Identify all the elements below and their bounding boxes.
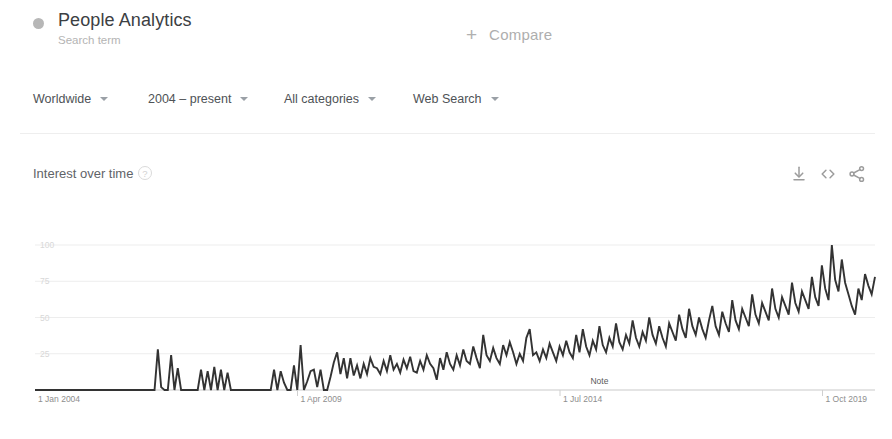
filter-bar: Worldwide 2004 – present All categories … [0,88,892,132]
filter-time-range[interactable]: 2004 – present [148,88,248,110]
x-axis-tick-label: 1 Oct 2019 [826,394,868,404]
section-divider [20,133,875,134]
plus-icon: + [466,25,477,44]
trends-header: People Analytics Search term + Compare [0,0,892,68]
embed-code-icon[interactable] [818,164,838,184]
search-term-title: People Analytics [58,10,192,31]
y-axis-tick-label: 100 [40,240,54,250]
y-axis-tick-label: 25 [40,349,50,359]
filter-time-range-label: 2004 – present [148,92,231,106]
series-color-dot [33,18,44,29]
chevron-down-icon [240,97,248,101]
chart-note-annotation[interactable]: Note [590,376,608,386]
y-axis-tick-label: 75 [40,276,50,286]
compare-label: Compare [489,26,552,43]
card-title: Interest over time [33,166,133,181]
chevron-down-icon [368,97,376,101]
help-icon[interactable]: ? [138,166,152,180]
search-term-subtitle: Search term [58,34,121,46]
chevron-down-icon [491,97,499,101]
filter-search-type[interactable]: Web Search [413,88,499,110]
x-axis-tick-label: 1 Jul 2014 [563,394,602,404]
interest-over-time-card: Interest over time ? 1007550251 Jan 2004… [0,150,892,439]
x-axis-tick-label: 1 Apr 2009 [301,394,342,404]
chevron-down-icon [100,97,108,101]
share-icon[interactable] [847,164,867,184]
filter-category[interactable]: All categories [284,88,376,110]
filter-search-type-label: Web Search [413,92,482,106]
filter-location[interactable]: Worldwide [33,88,108,110]
filter-category-label: All categories [284,92,359,106]
trends-line-chart[interactable]: 1007550251 Jan 20041 Apr 20091 Jul 20141… [0,210,892,439]
y-axis-tick-label: 50 [40,313,50,323]
x-axis-tick-label: 1 Jan 2004 [38,394,80,404]
filter-location-label: Worldwide [33,92,91,106]
compare-button[interactable]: + Compare [466,23,552,45]
download-icon[interactable] [789,164,809,184]
